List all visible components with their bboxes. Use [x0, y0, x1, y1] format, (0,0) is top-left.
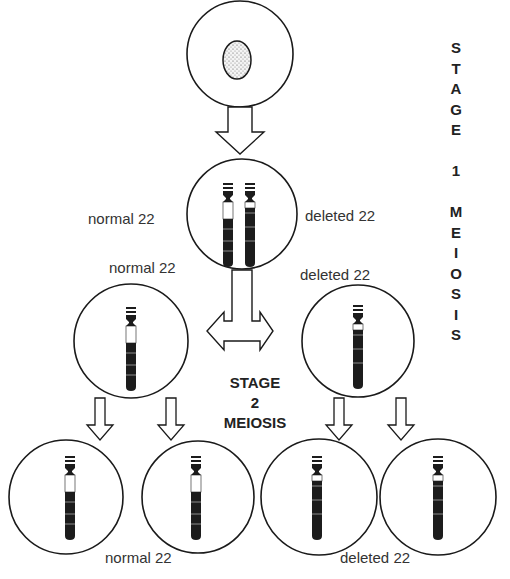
normal-chromosome: [223, 183, 233, 267]
daughter-cell-deleted-2: [380, 439, 496, 555]
daughter-cell-deleted-1: [261, 439, 377, 555]
stage1-cell: [187, 159, 297, 269]
arrow-down-icon: [216, 107, 264, 154]
daughter-cell-normal-1: [9, 440, 123, 554]
stage1-left-label: normal 22: [88, 210, 155, 227]
stage1-right-label: deleted 22: [305, 207, 375, 224]
nucleus: [223, 41, 251, 79]
meiosis-diagram: [0, 0, 510, 579]
arrow-down-icon: [388, 398, 414, 440]
arrow-down-icon: [87, 398, 113, 440]
deleted-chromosome: [245, 183, 255, 267]
deleted-22-cell: [302, 285, 414, 397]
normal-22-label: normal 22: [109, 259, 176, 276]
stage2-meiosis-heading: STAGE 2 MEIOSIS: [210, 373, 300, 433]
arrow-down-icon: [326, 398, 352, 440]
daughter-cell-normal-2: [142, 441, 254, 553]
normal-22-cell: [74, 284, 188, 398]
parent-cell: [187, 1, 293, 107]
bottom-normal-22-label: normal 22: [105, 549, 172, 566]
bottom-deleted-22-label: deleted 22: [340, 549, 410, 566]
arrow-down-icon: [158, 398, 184, 440]
stage1-meiosis-heading: S T A G E 1 M E I O S I S: [444, 38, 468, 346]
split-arrow-icon: [207, 270, 273, 350]
deleted-22-label: deleted 22: [300, 266, 370, 283]
